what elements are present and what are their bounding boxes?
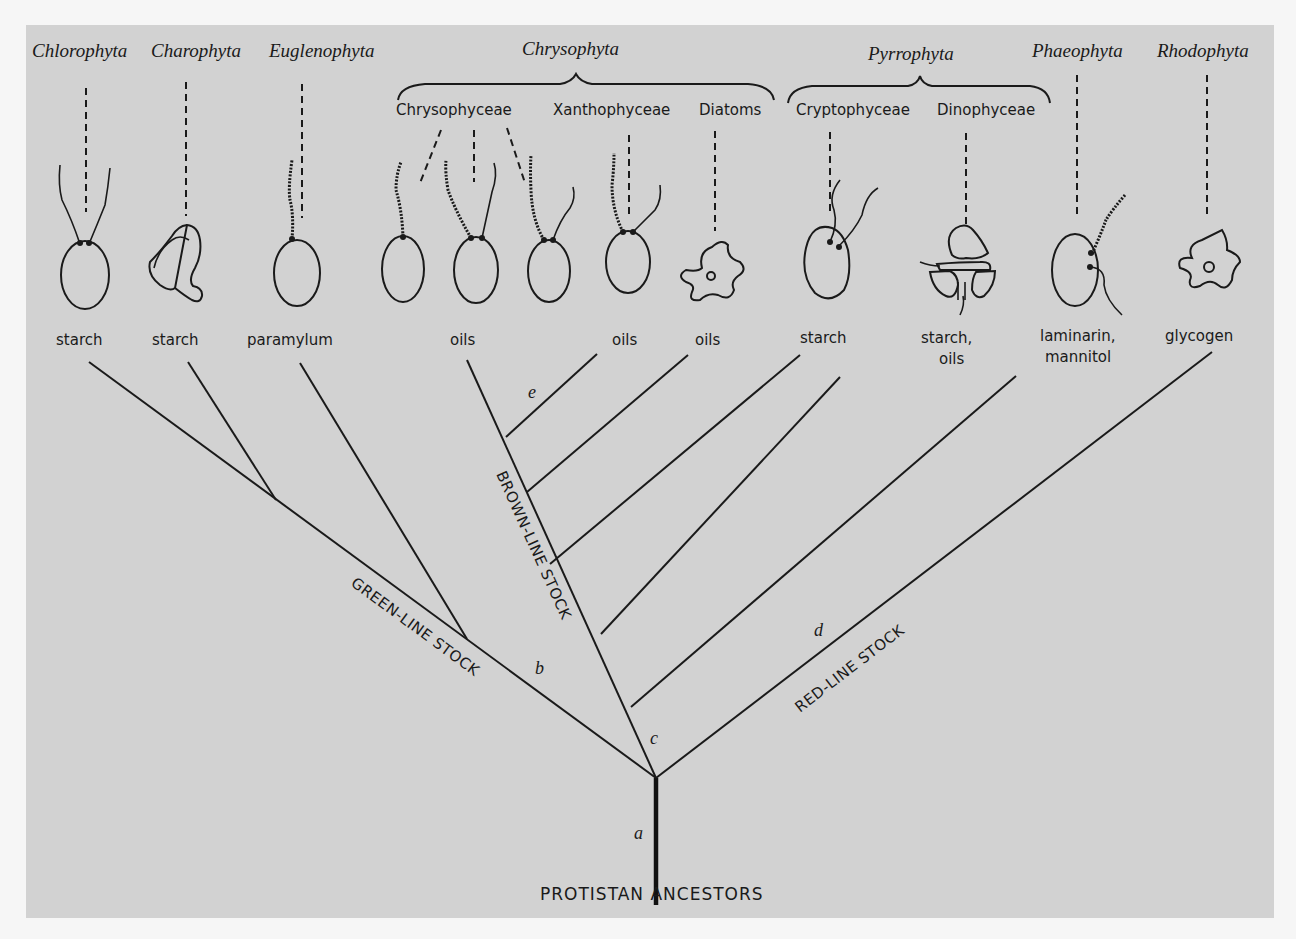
brace-pyrrophyta — [788, 76, 1050, 103]
organism-chrysophyceae-2 — [446, 160, 498, 303]
organism-chlorophyta — [59, 165, 110, 309]
node-label-a: a — [634, 823, 643, 843]
label-euglenophyta: Euglenophyta — [268, 40, 375, 61]
node-label-c: c — [650, 728, 658, 748]
organism-dinophyceae — [920, 225, 995, 315]
label-green-line-stock: GREEN-LINE STOCK — [348, 574, 484, 680]
organism-rhodophyta — [1179, 230, 1240, 288]
food-dinophyceae-1: starch, — [921, 329, 972, 347]
organism-chrysophyceae-1 — [382, 162, 424, 302]
label-rhodophyta: Rhodophyta — [1156, 40, 1249, 61]
node-label-e: e — [528, 382, 536, 402]
label-charophyta: Charophyta — [151, 40, 241, 61]
branch-brown-stock — [467, 360, 656, 778]
organism-phaeophyta — [1052, 195, 1125, 315]
node-label-b: b — [535, 658, 544, 678]
food-dinophyceae-2: oils — [939, 350, 965, 368]
branch-xanthophyceae — [506, 354, 597, 437]
food-chrysophyceae: oils — [450, 331, 476, 349]
label-red-line-stock: RED-LINE STOCK — [791, 621, 908, 717]
food-diatoms: oils — [695, 331, 721, 349]
branch-diatoms — [527, 355, 688, 492]
label-dinophyceae: Dinophyceae — [937, 101, 1035, 119]
food-phaeophyta-2: mannitol — [1045, 348, 1111, 366]
branch-charophyta — [188, 362, 276, 500]
brace-chrysophyta — [398, 74, 774, 100]
food-phaeophyta-1: laminarin, — [1040, 327, 1115, 345]
organism-charophyta — [149, 225, 202, 301]
organism-chrysophyceae-3 — [528, 155, 574, 302]
label-xanthophyceae: Xanthophyceae — [553, 101, 670, 119]
food-xanthophyceae: oils — [612, 331, 638, 349]
food-charophyta: starch — [152, 331, 198, 349]
label-cryptophyceae: Cryptophyceae — [796, 101, 910, 119]
branch-phaeophyta — [631, 376, 1016, 707]
label-phaeophyta: Phaeophyta — [1031, 40, 1123, 61]
branch-red-stock — [656, 352, 1212, 778]
food-euglenophyta: paramylum — [247, 331, 333, 349]
node-label-d: d — [814, 620, 824, 640]
label-chrysophyta: Chrysophyta — [522, 38, 619, 59]
leader-lines — [86, 75, 1207, 231]
label-chrysophyceae: Chrysophyceae — [396, 101, 512, 119]
label-protistan-ancestors: PROTISTAN ANCESTORS — [540, 884, 764, 904]
organism-xanthophyceae — [606, 153, 660, 293]
food-rhodophyta: glycogen — [1165, 327, 1233, 345]
organism-cryptophyceae — [804, 180, 878, 298]
label-pyrrophyta: Pyrrophyta — [867, 43, 954, 64]
phylogenetic-tree: Chlorophyta Charophyta Euglenophyta Chry… — [0, 0, 1296, 939]
organism-diatom — [681, 242, 744, 300]
label-brown-line-stock: BROWN-LINE STOCK — [492, 468, 575, 623]
food-chlorophyta: starch — [56, 331, 102, 349]
label-chlorophyta: Chlorophyta — [32, 40, 127, 61]
food-cryptophyceae: starch — [800, 329, 846, 347]
branch-green-stock — [89, 362, 656, 778]
branch-dinophyceae — [601, 377, 840, 634]
label-diatoms: Diatoms — [699, 101, 762, 119]
organism-euglenophyta — [274, 160, 320, 306]
tree-branches — [89, 352, 1212, 905]
